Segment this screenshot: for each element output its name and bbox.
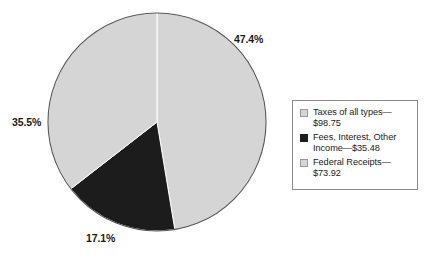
legend-label-taxes-line2: $98.75 [313,118,341,128]
slice-label-taxes: 47.4% [234,33,263,45]
legend-label-federal: Federal Receipts— $73.92 [313,157,391,180]
chart-legend: Taxes of all types— $98.75 Fees, Interes… [292,100,418,190]
pie-slice-taxes[interactable] [157,13,266,230]
legend-swatch-icon [300,134,308,142]
legend-label-taxes-line1: Taxes of all types— [313,107,392,117]
legend-list: Taxes of all types— $98.75 Fees, Interes… [300,107,412,181]
slice-label-fees: 17.1% [86,232,115,244]
legend-label-federal-line1: Federal Receipts— [313,157,391,167]
legend-item-taxes[interactable]: Taxes of all types— $98.75 [300,107,412,130]
legend-label-taxes: Taxes of all types— $98.75 [313,107,392,130]
legend-item-fees[interactable]: Fees, Interest, Other Income—$35.48 [300,132,412,155]
legend-swatch-icon [300,159,308,167]
legend-swatch-icon [300,109,308,117]
legend-label-federal-line2: $73.92 [313,168,341,178]
slice-label-federal: 35.5% [12,116,41,128]
pie-chart-figure: 47.4% 35.5% 17.1% Taxes of all types— $9… [0,0,432,256]
legend-item-federal[interactable]: Federal Receipts— $73.92 [300,157,412,180]
legend-label-fees-line1: Fees, Interest, Other [313,132,396,142]
legend-label-fees: Fees, Interest, Other Income—$35.48 [313,132,396,155]
legend-label-fees-line2: Income—$35.48 [313,143,380,153]
